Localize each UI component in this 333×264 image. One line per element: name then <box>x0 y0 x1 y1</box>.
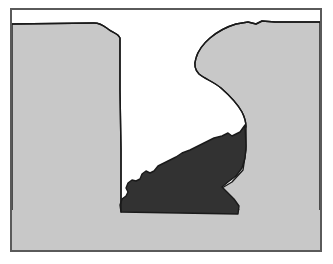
lower-rock-fill <box>12 210 320 250</box>
cross-section-figure <box>0 0 333 264</box>
figure-container: Geological cross-section illustration <box>0 0 333 264</box>
